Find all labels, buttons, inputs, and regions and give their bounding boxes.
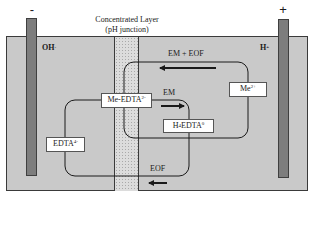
- metal-ion-charge: 2+: [251, 84, 256, 89]
- me-edta-box: Me-EDTA2-: [101, 93, 152, 108]
- eof-label: EOF: [150, 164, 165, 173]
- em-label: EM: [163, 88, 175, 97]
- edta-text: EDTA: [53, 139, 74, 148]
- metal-ion-box: Me2+: [229, 82, 267, 97]
- metal-ion-text: Me: [240, 84, 251, 93]
- edta-charge: 4-: [74, 139, 78, 144]
- h4edta-box: H4EDTA0: [163, 119, 214, 133]
- h4edta-text: EDTA: [181, 121, 202, 130]
- edta-box: EDTA4-: [46, 137, 85, 152]
- me-edta-text: Me-EDTA: [107, 95, 141, 104]
- me-edta-charge: 2-: [141, 95, 145, 100]
- em-eof-label: EM + EOF: [168, 49, 204, 58]
- h4edta-charge: 0: [202, 121, 205, 126]
